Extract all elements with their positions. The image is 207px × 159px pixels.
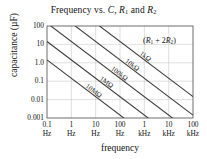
x-tick-unit: kHz — [173, 129, 207, 139]
x-tick-label: 100kHz — [173, 120, 207, 139]
chart-figure: Frequency vs. C, R1 and R2 1kΩ10kΩ100kΩ1… — [0, 0, 207, 159]
x-axis-ticks: 0.1Hz1Hz10Hz100Hz1kHz10kHz100kHz — [0, 0, 207, 159]
annotation-close: ) — [173, 36, 176, 45]
formula-annotation: (R1 + 2R2) — [143, 36, 176, 45]
annotation-plus: + 2 — [153, 36, 166, 45]
x-axis-label: frequency — [47, 143, 193, 153]
y-axis-label: capacitance (µF) — [9, 0, 19, 93]
x-tick-value: 100 — [173, 120, 207, 129]
